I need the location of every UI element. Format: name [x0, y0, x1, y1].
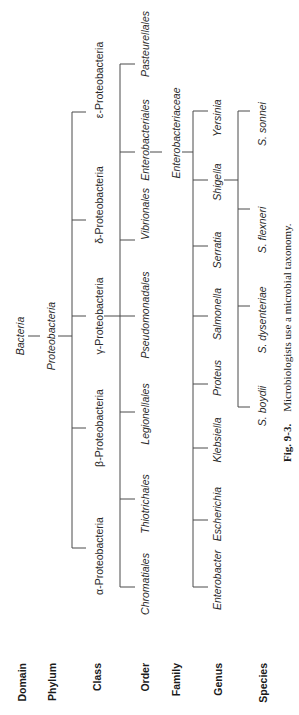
caption-text: Microbiologists use a microbial taxonomy…: [281, 223, 293, 412]
order-pseudomonadales: Pseudomonadales: [139, 271, 151, 359]
class-gamma: γ-Proteobacteria: [93, 277, 105, 354]
order-enterobacteriales: Enterobacteriales: [139, 98, 151, 180]
rank-label-domain: Domain: [16, 663, 28, 702]
rank-label-genus: Genus: [212, 663, 224, 696]
order-chromatiales: Chromatiales: [139, 552, 151, 615]
taxonomy-diagram: Domain Phylum Class Order Family Genus S…: [0, 0, 299, 715]
genus-klebsiella: Klebsiella: [211, 417, 223, 462]
domain-bacteria: Bacteria: [14, 317, 26, 356]
species-s-flexneri: S. flexneri: [256, 206, 268, 253]
class-alpha: α-Proteobacteria: [93, 517, 105, 595]
species-s-sonnei: S. sonnei: [256, 101, 268, 145]
genus-escherichia: Escherichia: [211, 487, 223, 541]
rank-label-family: Family: [170, 663, 182, 696]
taxa: Bacteria Proteobacteria α-Proteobacteria…: [14, 10, 268, 615]
rank-label-order: Order: [139, 663, 151, 692]
phylum-proteobacteria: Proteobacteria: [45, 302, 57, 370]
rank-labels: Domain Phylum Class Order Family Genus S…: [16, 663, 269, 703]
order-thiotrichales: Thiotrichales: [139, 473, 151, 533]
figure-caption: Fig. 9-3. Microbiologists use a microbia…: [277, 223, 294, 462]
genus-enterobacter: Enterobacter: [211, 549, 223, 610]
class-delta: δ-Proteobacteria: [93, 166, 105, 244]
family-enterobacteriaceae: Enterobacteriaceae: [170, 87, 182, 178]
order-legionellales: Legionellales: [139, 383, 151, 445]
class-beta: β-Proteobacteria: [93, 389, 105, 467]
genus-proteus: Proteus: [211, 359, 223, 396]
caption-number: Fig. 9-3.: [281, 424, 293, 462]
order-vibrionales: Vibrionales: [139, 187, 151, 240]
species-s-boydii: S. boydii: [256, 385, 268, 426]
genus-serratia: Serratia: [211, 231, 223, 268]
species-s-dysenteriae: S. dysenteriae: [256, 286, 268, 353]
genus-shigella: Shigella: [211, 163, 223, 201]
genus-salmonella: Salmonella: [211, 288, 223, 340]
order-pasteurellales: Pasteurellales: [139, 10, 151, 77]
rank-label-class: Class: [91, 663, 103, 691]
rank-label-phylum: Phylum: [46, 663, 58, 701]
class-epsilon: ε-Proteobacteria: [93, 42, 105, 119]
rank-label-species: Species: [257, 663, 269, 703]
genus-yersinia: Yersinia: [211, 99, 223, 137]
